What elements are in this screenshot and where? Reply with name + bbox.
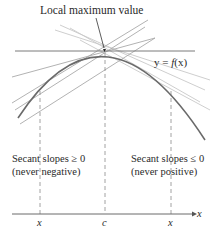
tick-label-left-x: x	[37, 218, 42, 229]
left-region-note: Secant slopes ≥ 0 (never negative)	[12, 152, 85, 178]
function-label: y = f(x)	[154, 57, 187, 68]
local-maximum-label: Local maximum value	[40, 5, 143, 17]
right-region-note: Secant slopes ≤ 0 (never positive)	[131, 152, 204, 178]
left-note-line2: (never negative)	[12, 165, 85, 178]
tick-label-right-x: x	[168, 218, 173, 229]
right-note-line1: Secant slopes ≤ 0	[131, 152, 204, 165]
function-arg: (x)	[174, 56, 187, 68]
right-note-line2: (never positive)	[131, 165, 204, 178]
x-axis-label: x	[197, 209, 202, 220]
left-note-line1: Secant slopes ≥ 0	[12, 152, 85, 165]
local-maximum-diagram	[0, 0, 218, 234]
tick-label-c: c	[102, 218, 107, 229]
function-label-prefix: y =	[154, 56, 171, 68]
